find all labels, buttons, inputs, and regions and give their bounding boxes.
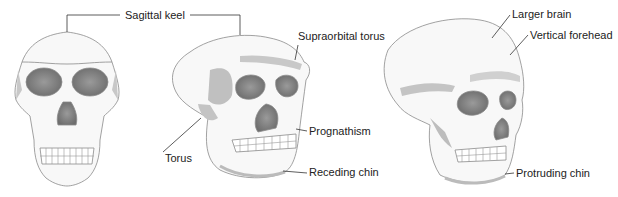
- skull-front: [15, 32, 119, 186]
- label-supraorbital-torus: Supraorbital torus: [298, 30, 385, 42]
- label-sagittal-keel: Sagittal keel: [125, 9, 185, 21]
- skull-modern: [384, 19, 524, 183]
- leader-sagittal-right: [190, 15, 240, 35]
- label-protruding-chin: Protruding chin: [516, 167, 590, 179]
- leader-torus: [163, 118, 201, 152]
- label-torus: Torus: [165, 152, 192, 164]
- skull-archaic: [172, 35, 309, 177]
- label-larger-brain: Larger brain: [512, 8, 571, 20]
- leader-receding-chin: [283, 171, 307, 173]
- label-vertical-forehead: Vertical forehead: [530, 29, 613, 41]
- label-prognathism: Prognathism: [309, 125, 371, 137]
- label-receding-chin: Receding chin: [309, 166, 379, 178]
- leader-sagittal-left: [67, 15, 120, 32]
